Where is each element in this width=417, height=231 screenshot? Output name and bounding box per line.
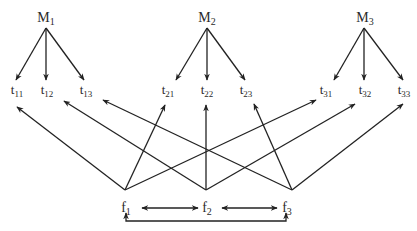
edge-M1-t13-arrow [46,28,84,80]
manager-node-M3: M3 [356,10,373,27]
factor-task-manager-diagram: M1M2M3t11t12t13t21t22t23t31t32t33f1f2f3 [0,0,417,231]
factor-node-f1: f1 [121,200,131,217]
task-node-t11: t11 [11,82,23,99]
task-node-t31: t31 [320,82,333,99]
edge-M2-t21-arrow [176,28,207,80]
edge-M3-t31-arrow [334,28,364,80]
edge-M3-t33-arrow [364,28,403,80]
task-node-t33: t33 [398,82,411,99]
task-node-t21: t21 [162,82,175,99]
factor-task-edges [17,100,403,190]
edge-M1-t11-arrow [16,28,46,80]
edge-f3-t33-arrow [292,104,403,190]
manager-node-M1: M1 [37,10,54,27]
task-node-t32: t32 [359,82,372,99]
edge-M2-t23-arrow [207,28,245,80]
node-labels: M1M2M3t11t12t13t21t22t23t31t32t33f1f2f3 [11,10,411,217]
manager-task-edges [16,28,403,80]
task-node-t12: t12 [41,82,54,99]
edge-f1-t21-arrow [125,105,165,190]
edge-f2-t12-arrow [64,101,206,190]
task-node-t13: t13 [80,82,93,99]
edge-f1-t31-arrow [125,100,316,190]
task-node-t22: t22 [201,82,214,99]
task-node-t23: t23 [240,82,253,99]
edge-f1-t11-arrow [17,107,125,190]
manager-node-M2: M2 [198,10,215,27]
factor-node-f3: f3 [282,200,292,217]
factor-node-f2: f2 [202,200,212,217]
edge-f3-t23-arrow [254,104,292,190]
